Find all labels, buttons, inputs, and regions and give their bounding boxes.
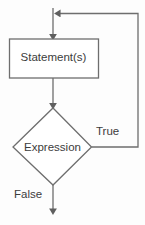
true-edge-label: True [96,126,119,138]
statement-node-label: Statement(s) [0,52,107,64]
flowchart-canvas: Statement(s) Expression True False [0,0,145,225]
false-edge-label: False [14,189,42,201]
expression-node-label: Expression [0,142,105,154]
